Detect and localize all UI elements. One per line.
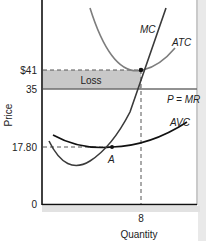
mc-label: MC <box>140 24 156 35</box>
loss-label: Loss <box>80 75 101 86</box>
point-a-label: A <box>107 154 115 165</box>
x-axis-title: Quantity <box>120 229 157 240</box>
atc-label: ATC <box>171 37 192 48</box>
x-tick-8: 8 <box>138 213 144 224</box>
y-tick-35: 35 <box>26 84 38 95</box>
y-axis-title: Price <box>3 103 14 126</box>
bottom-shadow <box>42 206 200 212</box>
cost-curves-chart: $41 35 17.80 0 8 Price Quantity MC ATC P… <box>0 0 206 241</box>
y-tick-1780: 17.80 <box>12 142 37 153</box>
pmr-label: P = MR <box>167 94 200 105</box>
y-tick-41: $41 <box>20 65 37 76</box>
atc-mc-intersection-point <box>139 68 144 73</box>
y-tick-0: 0 <box>31 199 37 210</box>
point-a <box>110 145 114 149</box>
avc-curve <box>53 122 187 148</box>
avc-label: AVC <box>169 117 191 128</box>
right-margin-shade <box>198 0 206 241</box>
